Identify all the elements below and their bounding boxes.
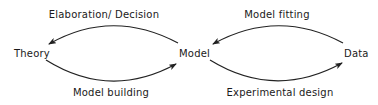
theory-model-data-cycle-diagram: Theory Model Data Elaboration/ Decision … — [0, 0, 378, 105]
arrow-elaboration-decision — [49, 26, 178, 44]
edge-label-elaboration-decision: Elaboration/ Decision — [49, 9, 159, 21]
node-theory: Theory — [14, 48, 50, 60]
edge-label-model-fitting: Model fitting — [244, 9, 309, 21]
edge-label-experimental-design: Experimental design — [227, 87, 334, 99]
arrow-experimental-design — [210, 60, 342, 81]
arrow-model-fitting — [213, 26, 343, 44]
node-data: Data — [344, 48, 369, 60]
arrow-model-building — [46, 60, 176, 81]
node-model: Model — [179, 48, 210, 60]
edge-label-model-building: Model building — [73, 87, 149, 99]
